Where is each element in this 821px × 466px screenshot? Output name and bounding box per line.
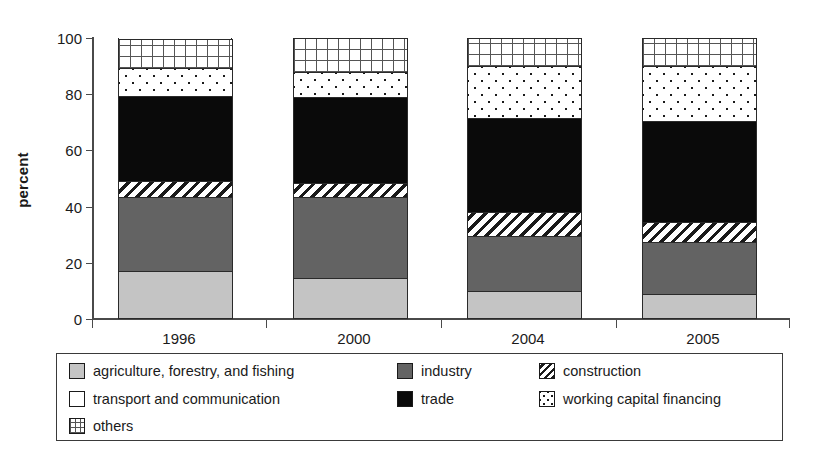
- bar-segment-1996-others: [118, 39, 233, 67]
- legend-label-working-capital-financing: working capital financing: [563, 391, 721, 407]
- legend-label-industry: industry: [421, 363, 472, 379]
- x-tick-1: [266, 320, 267, 328]
- bar-2005: [642, 38, 756, 319]
- chart-legend: agriculture, forestry, and fishing indus…: [56, 353, 783, 441]
- legend-label-trade: trade: [421, 391, 454, 407]
- legend-label-transport: transport and communication: [93, 391, 280, 407]
- y-tick-label-60: 60: [36, 143, 82, 158]
- bar-segment-2004-working-capital-financing: [467, 66, 582, 118]
- bar-segment-2005-others: [642, 38, 757, 66]
- x-label-2004: 2004: [468, 330, 588, 347]
- legend-label-construction: construction: [563, 363, 641, 379]
- legend-swatch-trade-icon: [397, 391, 413, 407]
- bar-segment-2004-industry: [467, 236, 582, 291]
- bar-1996: [118, 38, 232, 319]
- x-label-2005: 2005: [643, 330, 763, 347]
- legend-label-agriculture: agriculture, forestry, and fishing: [93, 363, 294, 379]
- bar-segment-2005-agriculture-forestry-and-fishing: [642, 294, 757, 319]
- y-tick-label-40: 40: [36, 200, 82, 215]
- bar-segment-2004-agriculture-forestry-and-fishing: [467, 291, 582, 319]
- legend-item-construction: construction: [539, 363, 641, 379]
- legend-swatch-transport-icon: [69, 391, 85, 407]
- legend-label-others: others: [93, 418, 133, 434]
- bar-segment-1996-trade: [118, 96, 233, 182]
- legend-item-industry: industry: [397, 363, 472, 379]
- x-tick-4: [789, 320, 790, 328]
- legend-item-trade: trade: [397, 391, 454, 407]
- legend-item-working-capital-financing: working capital financing: [539, 391, 721, 407]
- bar-segment-1996-agriculture-forestry-and-fishing: [118, 271, 233, 319]
- y-tick-label-0: 0: [36, 312, 82, 327]
- x-label-2000: 2000: [294, 330, 414, 347]
- x-tick-0: [92, 320, 93, 328]
- plot-area: [92, 38, 790, 319]
- x-tick-3: [616, 320, 617, 328]
- bar-segment-2004-others: [467, 38, 582, 66]
- legend-swatch-working-capital-financing-icon: [539, 391, 555, 407]
- bar-segment-2005-construction: [642, 222, 757, 242]
- bar-2004: [467, 38, 581, 319]
- legend-swatch-others-icon: [69, 418, 85, 434]
- bar-segment-2000-agriculture-forestry-and-fishing: [293, 278, 408, 319]
- x-tick-2: [441, 320, 442, 328]
- legend-item-others: others: [69, 418, 133, 434]
- y-tick-label-80: 80: [36, 87, 82, 102]
- legend-swatch-construction-icon: [539, 363, 555, 379]
- bar-segment-2000-trade: [293, 97, 408, 183]
- page-bottom-margin: [0, 455, 821, 466]
- legend-item-transport: transport and communication: [69, 391, 280, 407]
- y-tick-label-100: 100: [36, 31, 82, 46]
- x-label-1996: 1996: [119, 330, 239, 347]
- bar-segment-2000-industry: [293, 197, 408, 278]
- bar-segment-2000-working-capital-financing: [293, 72, 408, 97]
- bar-segment-1996-industry: [118, 197, 233, 271]
- bar-segment-1996-construction: [118, 181, 233, 196]
- legend-item-agriculture: agriculture, forestry, and fishing: [69, 363, 294, 379]
- bar-segment-2000-others: [293, 38, 408, 72]
- legend-swatch-agriculture-icon: [69, 363, 85, 379]
- bar-segment-2004-trade: [467, 118, 582, 212]
- bar-segment-2005-industry: [642, 242, 757, 294]
- y-tick-label-20: 20: [36, 256, 82, 271]
- bar-segment-2005-working-capital-financing: [642, 66, 757, 121]
- bar-segment-2000-construction: [293, 183, 408, 197]
- bar-segment-1996-working-capital-financing: [118, 68, 233, 96]
- bar-segment-2005-trade: [642, 121, 757, 222]
- bar-segment-2004-construction: [467, 212, 582, 236]
- legend-swatch-industry-icon: [397, 363, 413, 379]
- y-axis-title: percent: [14, 140, 31, 220]
- bar-2000: [293, 38, 407, 319]
